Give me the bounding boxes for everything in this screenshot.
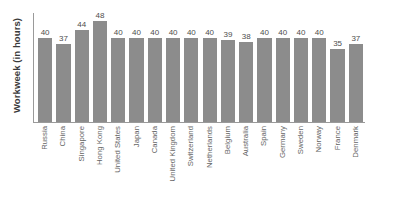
bar bbox=[184, 38, 198, 122]
bar bbox=[257, 38, 271, 122]
bar bbox=[221, 40, 235, 122]
x-axis-tick-label: Switzerland bbox=[182, 124, 200, 204]
x-axis-tick-label-text: Switzerland bbox=[187, 126, 195, 166]
x-axis-tick-label: Sweden bbox=[292, 124, 310, 204]
x-axis-tick-label: Denmark bbox=[347, 124, 365, 204]
bar-group: 48 bbox=[93, 13, 107, 122]
x-axis-tick-label: Hong Kong bbox=[91, 124, 109, 204]
bar-value-label: 40 bbox=[132, 28, 141, 37]
bar-group: 35 bbox=[330, 13, 344, 122]
x-axis-tick-label-text: United Kingdom bbox=[169, 126, 177, 181]
bar bbox=[38, 38, 52, 122]
x-axis-tick-label-text: Belgium bbox=[224, 126, 232, 154]
bar-value-label: 40 bbox=[41, 28, 50, 37]
x-axis-line bbox=[33, 122, 365, 123]
bar-value-label: 40 bbox=[260, 28, 269, 37]
bar bbox=[203, 38, 217, 122]
bar-group: 40 bbox=[312, 13, 326, 122]
x-axis-tick-label: Singapore bbox=[73, 124, 91, 204]
bar-group: 40 bbox=[203, 13, 217, 122]
bar-value-label: 40 bbox=[114, 28, 123, 37]
x-axis-tick-label: Germany bbox=[274, 124, 292, 204]
x-axis-tick-label: Norway bbox=[310, 124, 328, 204]
bar bbox=[239, 42, 253, 122]
bar bbox=[75, 30, 89, 122]
x-axis-tick-label-text: United States bbox=[114, 126, 122, 173]
bar bbox=[129, 38, 143, 122]
x-axis-tick-label-text: Denmark bbox=[352, 126, 360, 158]
x-axis-tick-label: United Kingdom bbox=[164, 124, 182, 204]
bar-group: 40 bbox=[111, 13, 125, 122]
bar-group: 40 bbox=[38, 13, 52, 122]
x-axis-tick-label-text: Germany bbox=[279, 126, 287, 158]
x-axis-tick-label-text: Sweden bbox=[297, 126, 305, 154]
x-axis-tick-label-text: Spain bbox=[260, 126, 268, 146]
x-axis-tick-label: Russia bbox=[36, 124, 54, 204]
bar bbox=[349, 44, 363, 122]
x-axis-tick-label: Australia bbox=[237, 124, 255, 204]
bar-group: 40 bbox=[257, 13, 271, 122]
x-axis-tick-label-text: Japan bbox=[133, 126, 141, 147]
x-axis-tick-label-text: France bbox=[334, 126, 342, 150]
x-axis-category-labels: RussiaChinaSingaporeHong KongUnited Stat… bbox=[36, 124, 365, 204]
plot-area: 403744484040404040403938404040403537 bbox=[36, 13, 365, 122]
bar bbox=[166, 38, 180, 122]
bar bbox=[330, 49, 344, 122]
bar-group: 40 bbox=[148, 13, 162, 122]
bar-group: 38 bbox=[239, 13, 253, 122]
bar bbox=[56, 44, 70, 122]
y-axis-title: Workweek (in hours) bbox=[0, 0, 33, 130]
bar-value-label: 40 bbox=[278, 28, 287, 37]
bar-value-label: 39 bbox=[223, 30, 232, 39]
bar-value-label: 40 bbox=[297, 28, 306, 37]
y-axis-line bbox=[33, 13, 34, 123]
x-axis-tick-label: Belgium bbox=[219, 124, 237, 204]
x-axis-tick-label: Canada bbox=[146, 124, 164, 204]
bar-value-label: 40 bbox=[150, 28, 159, 37]
bar-group: 40 bbox=[276, 13, 290, 122]
x-axis-tick-label-text: Australia bbox=[242, 126, 250, 156]
bar-group: 37 bbox=[56, 13, 70, 122]
bar-value-label: 48 bbox=[96, 11, 105, 20]
x-axis-tick-label-text: Norway bbox=[315, 126, 323, 152]
bar bbox=[276, 38, 290, 122]
x-axis-tick-label-text: Singapore bbox=[78, 126, 86, 162]
bar-group: 40 bbox=[166, 13, 180, 122]
x-axis-tick-label: China bbox=[54, 124, 72, 204]
bar-group: 40 bbox=[294, 13, 308, 122]
bar bbox=[148, 38, 162, 122]
x-axis-tick-label: Japan bbox=[127, 124, 145, 204]
bar-chart: Workweek (in hours) 40374448404040404040… bbox=[0, 0, 400, 205]
x-axis-tick-label: France bbox=[328, 124, 346, 204]
x-axis-tick-label-text: Hong Kong bbox=[96, 126, 104, 165]
bar-value-label: 40 bbox=[169, 28, 178, 37]
x-axis-tick-label-text: Russia bbox=[41, 126, 49, 150]
bar-group: 37 bbox=[349, 13, 363, 122]
bar bbox=[312, 38, 326, 122]
x-axis-tick-label: United States bbox=[109, 124, 127, 204]
x-axis-tick-label-text: Canada bbox=[151, 126, 159, 153]
bar-value-label: 40 bbox=[187, 28, 196, 37]
bar-value-label: 37 bbox=[59, 34, 68, 43]
y-axis-title-text: Workweek (in hours) bbox=[11, 17, 22, 112]
bar bbox=[294, 38, 308, 122]
bar-group: 39 bbox=[221, 13, 235, 122]
x-axis-tick-label: Spain bbox=[255, 124, 273, 204]
bar-group: 44 bbox=[75, 13, 89, 122]
bar-value-label: 40 bbox=[205, 28, 214, 37]
bar-value-label: 35 bbox=[333, 39, 342, 48]
bar-value-label: 38 bbox=[242, 32, 251, 41]
bar-group: 40 bbox=[129, 13, 143, 122]
bar bbox=[111, 38, 125, 122]
x-axis-tick-label-text: Netherlands bbox=[206, 126, 214, 168]
bar-value-label: 40 bbox=[315, 28, 324, 37]
bar-value-label: 44 bbox=[77, 20, 86, 29]
bar bbox=[93, 21, 107, 122]
x-axis-tick-label-text: China bbox=[59, 126, 67, 146]
bar-value-label: 37 bbox=[351, 34, 360, 43]
bar-group: 40 bbox=[184, 13, 198, 122]
x-axis-tick-label: Netherlands bbox=[201, 124, 219, 204]
